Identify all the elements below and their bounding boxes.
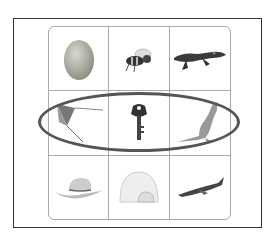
alligator-icon: [172, 44, 228, 74]
highlight-ellipse-row-2: [38, 92, 240, 152]
grid-cell-igloo: [109, 156, 169, 219]
grid-cell-hat: [49, 156, 108, 219]
hat-icon: [53, 174, 105, 202]
grid-cell-alligator: [170, 27, 230, 90]
egg-icon: [62, 36, 96, 82]
grid-cell-airplane: [170, 156, 230, 219]
grid-cell-egg: [49, 27, 108, 90]
airplane-icon: [174, 175, 226, 201]
igloo-icon: [116, 168, 162, 208]
bee-icon: [121, 44, 157, 74]
grid-cell-bee: [109, 27, 169, 90]
